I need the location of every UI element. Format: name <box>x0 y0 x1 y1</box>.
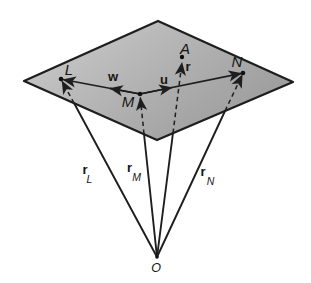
vector-line-O-to-M <box>144 134 157 257</box>
point-L-dot <box>59 77 64 82</box>
vector-u-label: u <box>160 72 168 87</box>
vector-rN-subscript: N <box>207 175 215 187</box>
origin-O-dot <box>155 255 159 259</box>
plane-vectors-diagram: L M N A O w u r r L r M r N <box>0 0 311 283</box>
vector-r-label: r <box>185 59 190 74</box>
point-L-label: L <box>65 61 73 78</box>
vector-w-label: w <box>107 69 119 84</box>
point-N-label: N <box>232 53 243 70</box>
vector-rL-subscript: L <box>87 173 93 185</box>
origin-O-label: O <box>151 261 161 275</box>
point-M-label: M <box>122 93 135 110</box>
point-A-label: A <box>179 40 190 57</box>
vector-rM-subscript: M <box>132 171 141 183</box>
vector-rN-label: r <box>200 164 205 179</box>
vector-plane-figure: L M N A O w u r r L r M r N <box>0 0 311 283</box>
point-N-dot <box>241 71 246 76</box>
point-M-dot <box>138 92 143 97</box>
